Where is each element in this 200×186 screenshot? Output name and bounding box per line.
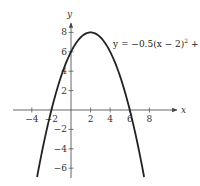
x-axis-label: x: [181, 105, 186, 115]
y-tick-label: −6: [54, 163, 68, 173]
y-tick-label: −4: [54, 144, 68, 154]
y-axis-ticks: −6−4−22468: [54, 27, 74, 173]
x-tick-label: −2: [45, 114, 58, 124]
equation-suffix: + 8: [188, 39, 200, 49]
y-axis-label: y: [66, 9, 73, 19]
equation-prefix: y = −0.5(x − 2): [112, 39, 184, 49]
x-tick-label: −4: [25, 114, 39, 124]
y-tick-label: 8: [61, 27, 67, 37]
x-tick-label: 2: [88, 114, 94, 124]
y-tick-label: 6: [61, 47, 67, 57]
x-tick-label: 8: [147, 114, 153, 124]
y-tick-label: −2: [54, 124, 67, 134]
x-tick-label: 4: [107, 114, 113, 124]
parabola-chart: −4−22468 −6−4−22468 x y y = −0.5(x − 2)2…: [0, 0, 200, 186]
y-tick-label: 2: [61, 86, 67, 96]
parabola-curve: [37, 32, 144, 177]
equation-label: y = −0.5(x − 2)2 + 8: [112, 37, 200, 49]
